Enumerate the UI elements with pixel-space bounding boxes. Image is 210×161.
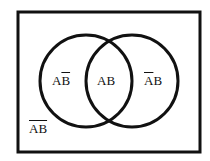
region-a-not-b-label: AB (52, 74, 70, 88)
region-not-a-b-label: AB (144, 74, 162, 88)
region-a-and-b-label: AB (97, 74, 115, 88)
region-not-a-not-b-label: AB (29, 122, 47, 136)
